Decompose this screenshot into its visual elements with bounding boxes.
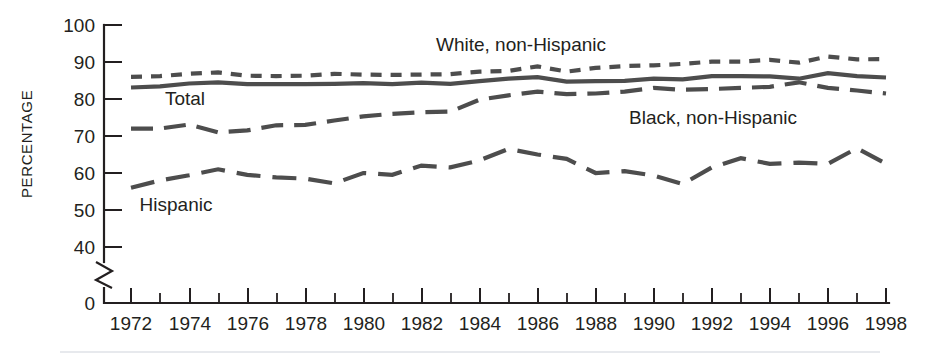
x-tick-label: 1978 — [285, 313, 327, 334]
x-tick-label: 1984 — [459, 313, 502, 334]
x-tick-label: 1988 — [575, 313, 617, 334]
x-tick-label: 1994 — [749, 313, 792, 334]
x-tick-label: 1990 — [633, 313, 675, 334]
series-line-hispanic — [131, 148, 886, 188]
y-tick-label: 60 — [74, 163, 95, 184]
x-tick-label: 1996 — [807, 313, 849, 334]
y-tick-labels: 100 90 80 70 60 50 40 0 — [63, 15, 95, 314]
x-tick-marks — [131, 288, 886, 303]
y-tick-label: 80 — [74, 89, 95, 110]
annotation-black-non-hispanic: Black, non-Hispanic — [629, 107, 797, 128]
annotation-white-non-hispanic: White, non-Hispanic — [436, 34, 606, 55]
x-tick-label: 1986 — [517, 313, 559, 334]
y-tick-label: 100 — [63, 15, 95, 36]
series-line-white-non-hispanic — [131, 57, 886, 77]
y-tick-label: 40 — [74, 237, 95, 258]
y-axis-line-lower-and-x-axis — [104, 288, 889, 303]
y-tick-marks — [104, 25, 122, 247]
y-tick-label: 0 — [84, 293, 95, 314]
y-tick-label: 50 — [74, 200, 95, 221]
y-axis-title: PERCENTAGE — [18, 90, 35, 198]
y-tick-label: 70 — [74, 126, 95, 147]
x-tick-label: 1992 — [691, 313, 733, 334]
line-chart-svg: PERCENTAGE 100 90 80 70 60 50 40 0 — [0, 0, 928, 364]
axis-break-icon — [96, 262, 112, 288]
x-tick-label: 1998 — [865, 313, 907, 334]
x-tick-label: 1982 — [401, 313, 443, 334]
annotation-total: Total — [165, 88, 205, 109]
chart-container: PERCENTAGE 100 90 80 70 60 50 40 0 — [0, 0, 928, 364]
x-tick-label: 1980 — [343, 313, 385, 334]
x-tick-label: 1972 — [110, 313, 152, 334]
y-tick-label: 90 — [74, 52, 95, 73]
x-tick-label: 1974 — [169, 313, 212, 334]
x-tick-labels: 1972 1974 1976 1978 1980 1982 1984 1986 … — [110, 313, 907, 334]
x-tick-label: 1976 — [227, 313, 269, 334]
annotation-hispanic: Hispanic — [140, 194, 213, 215]
